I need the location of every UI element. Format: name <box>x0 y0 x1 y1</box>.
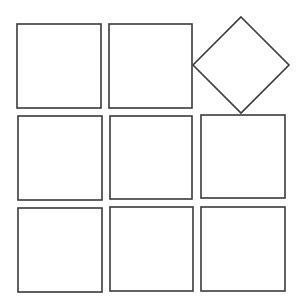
square-r3c1 <box>18 208 102 292</box>
square-r3c2 <box>110 207 193 291</box>
rotated-square-r1c3 <box>193 17 289 113</box>
square-r2c2 <box>110 116 192 199</box>
square-r1c1 <box>17 24 101 108</box>
square-r2c1 <box>18 116 102 200</box>
square-r3c3 <box>201 207 285 291</box>
square-r1c2 <box>109 24 192 108</box>
grid-diagram <box>0 0 306 306</box>
square-r2c3 <box>201 115 285 198</box>
